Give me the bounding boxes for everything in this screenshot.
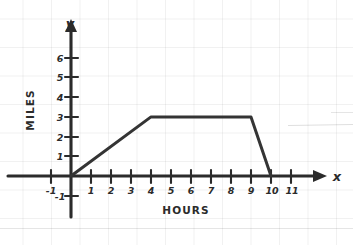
x-tick-label: 7 xyxy=(208,185,215,196)
x-axis-title: HOURS xyxy=(162,204,209,216)
x-tick-label: 9 xyxy=(248,185,255,196)
y-tick-label: 6 xyxy=(57,53,64,64)
y-tick-label: 3 xyxy=(57,112,64,123)
distance-time-line xyxy=(71,117,271,176)
y-tick-labels: -1 1 2 3 4 5 6 xyxy=(55,53,66,202)
x-axis-name-label: x xyxy=(332,169,342,184)
line-graph: -1 1 2 3 4 5 6 7 8 9 10 11 -1 1 2 3 4 5 … xyxy=(0,0,353,245)
y-tick-label: 5 xyxy=(57,72,64,83)
y-tick-label: 1 xyxy=(57,151,64,162)
y-axis-title: MILES xyxy=(24,89,36,130)
x-tick-label: 6 xyxy=(188,185,195,196)
x-tick-label: 11 xyxy=(285,185,298,196)
x-tick-label: 8 xyxy=(228,185,235,196)
x-tick-labels: -1 1 2 3 4 5 6 7 8 9 10 11 xyxy=(46,185,299,196)
x-tick-label: 10 xyxy=(265,185,279,196)
y-tick-label: 2 xyxy=(57,132,64,143)
x-tick-label: 5 xyxy=(168,185,175,196)
x-tick-label: 1 xyxy=(88,185,95,196)
x-tick-label: 2 xyxy=(108,185,115,196)
x-axis-arrow-icon xyxy=(313,170,327,182)
y-tick-label: -1 xyxy=(55,191,66,202)
x-tick-label: 4 xyxy=(147,185,155,196)
y-tick-label: 4 xyxy=(56,92,64,103)
x-tick-label: 3 xyxy=(128,185,135,196)
y-axis-name-label: y xyxy=(66,16,75,31)
